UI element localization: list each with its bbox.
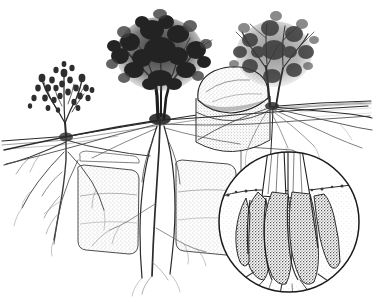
rock-slab-left bbox=[78, 165, 139, 254]
illustration-canvas bbox=[0, 0, 373, 303]
root-system-illustration: Black and white pen-and-ink botanical il… bbox=[0, 0, 373, 303]
